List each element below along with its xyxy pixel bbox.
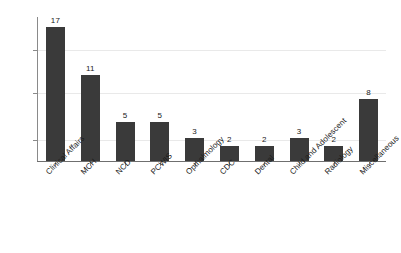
- bar-value-label: 3: [287, 127, 311, 136]
- bar-mch: [81, 75, 100, 162]
- y-axis-tick-15: [33, 50, 38, 51]
- y-axis-tick-5: [33, 140, 38, 141]
- bar-value-label: 8: [357, 88, 381, 97]
- bar-chart: 171155322328 Clinical AffairsMCHNCDPCWIS…: [0, 0, 401, 253]
- bar-value-label: 3: [183, 127, 207, 136]
- bar-value-label: 2: [252, 135, 276, 144]
- bar-value-label: 11: [78, 64, 102, 73]
- bar-value-label: 17: [43, 16, 67, 25]
- bar-value-label: 5: [148, 111, 172, 120]
- bar-ncd: [116, 122, 135, 162]
- bar-value-label: 5: [113, 111, 137, 120]
- bar-clinical-affairs: [46, 27, 65, 162]
- y-axis-tick-10: [33, 93, 38, 94]
